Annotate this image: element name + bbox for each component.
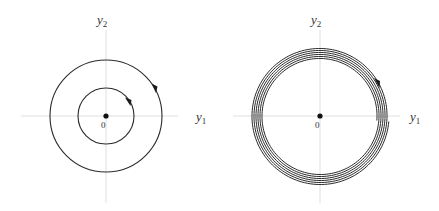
left-panel: 0 y2 y1 — [21, 12, 206, 203]
left-y1-label: y1 — [194, 109, 206, 126]
left-origin-point — [103, 113, 108, 118]
right-y1-label: y1 — [408, 109, 420, 126]
right-y2-label: y2 — [309, 12, 321, 29]
left-inner-arrow-icon — [125, 98, 132, 107]
right-origin-label: 0 — [315, 120, 320, 130]
phase-portrait-svg: 0 y2 y1 0 y2 y1 — [0, 0, 439, 211]
right-spiral-arrow-icon — [374, 78, 380, 88]
left-y2-label: y2 — [95, 12, 107, 29]
right-origin-point — [317, 113, 322, 118]
right-panel: 0 y2 y1 — [233, 12, 420, 203]
left-origin-label: 0 — [101, 120, 106, 130]
phase-portrait-figure: 0 y2 y1 0 y2 y1 — [0, 0, 439, 211]
